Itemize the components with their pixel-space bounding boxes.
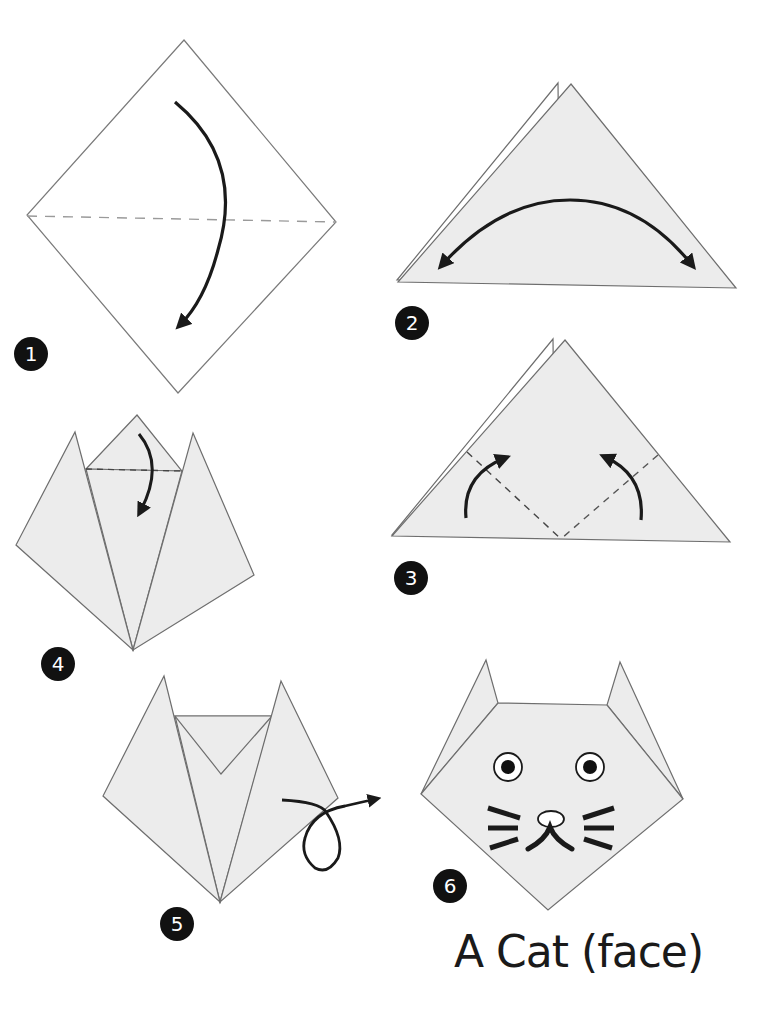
top-flap [86,415,182,471]
step-badge-4: 4 [41,647,75,681]
step-1-diagram [27,40,336,393]
page-title: A Cat (face) [454,926,703,977]
origami-instructions-diagram [0,0,771,1015]
left-eye-icon [494,753,522,781]
triangle-paper [392,340,730,542]
right-eye-icon [576,753,604,781]
diamond-paper [27,40,336,393]
step-2-diagram [397,83,736,288]
step-badge-6: 6 [433,869,467,903]
step-5-diagram [103,676,376,902]
step-badge-2: 2 [395,306,429,340]
step-badge-5: 5 [160,907,194,941]
step-badge-1: 1 [14,337,48,371]
step-badge-3: 3 [394,561,428,595]
step-4-diagram [16,415,254,650]
step-3-diagram [392,339,730,542]
